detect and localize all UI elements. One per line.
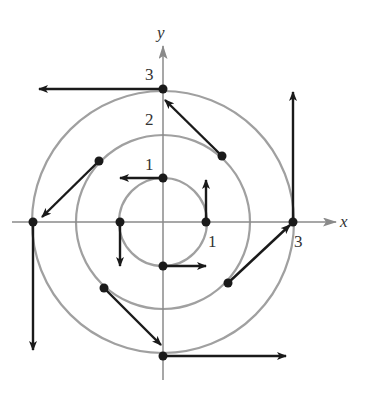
axes bbox=[12, 46, 336, 380]
point-q3-r2 bbox=[100, 284, 109, 293]
y-axis-label: y bbox=[155, 23, 165, 42]
point-neg1-0 bbox=[116, 218, 125, 227]
point-3-0 bbox=[289, 218, 298, 227]
x-axis-label: x bbox=[339, 212, 348, 231]
vector-q1-r2 bbox=[165, 100, 222, 156]
vector-q4-r2 bbox=[228, 225, 290, 283]
point-0-3 bbox=[159, 85, 168, 94]
vector-q3-r2 bbox=[104, 288, 161, 345]
point-q2-r2 bbox=[95, 157, 104, 166]
y-tick-1: 1 bbox=[145, 155, 154, 174]
point-0-neg3 bbox=[159, 352, 168, 361]
point-neg3-0 bbox=[29, 218, 38, 227]
x-tick-3: 3 bbox=[294, 232, 303, 251]
point-1-0 bbox=[202, 218, 211, 227]
x-tick-1: 1 bbox=[208, 232, 217, 251]
vector-q2-r2 bbox=[42, 161, 99, 217]
point-q1-r2 bbox=[218, 152, 227, 161]
y-tick-2: 2 bbox=[145, 110, 154, 129]
point-0-neg1 bbox=[159, 262, 168, 271]
y-tick-3: 3 bbox=[145, 65, 154, 84]
point-q4-r2 bbox=[224, 279, 233, 288]
vector-field-diagram: x y 1 3 1 2 3 bbox=[0, 0, 366, 399]
point-0-1 bbox=[159, 174, 168, 183]
